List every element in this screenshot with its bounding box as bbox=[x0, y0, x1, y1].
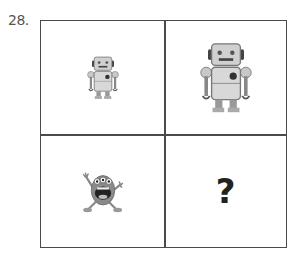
small-robot-icon bbox=[86, 56, 120, 100]
question-number: 28. bbox=[8, 12, 29, 28]
large-robot-icon bbox=[199, 42, 253, 114]
cell-small-robot bbox=[41, 21, 164, 134]
analogy-grid: ? bbox=[40, 20, 287, 248]
cell-large-robot bbox=[165, 21, 286, 134]
cell-answer: ? bbox=[165, 135, 286, 247]
cell-small-monster bbox=[41, 135, 164, 247]
question-mark: ? bbox=[216, 171, 236, 211]
monster-icon bbox=[81, 168, 125, 214]
